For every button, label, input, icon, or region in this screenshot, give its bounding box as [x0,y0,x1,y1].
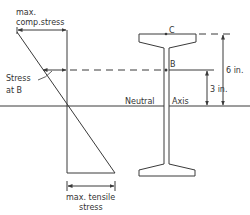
point-b-marker [165,69,168,72]
six-inch-label: 6 in. [226,66,243,75]
stress-at-b-arrow [38,70,66,80]
stress-distribution [17,30,115,173]
max-tensile-label-line2: stress [79,203,103,212]
axis-label: Axis [172,97,189,106]
max-tensile-stress-dimension [67,181,115,191]
stress-at-b-label-line2: at B [6,86,22,95]
point-b-label: B [170,60,176,69]
point-c-marker [165,33,168,36]
max-comp-stress-dimension [17,27,66,34]
neutral-label: Neutral [125,97,155,106]
stress-gradient-line [17,32,115,173]
max-comp-label-line1: max. [16,8,36,17]
bending-stress-diagram: max. comp.stress Stress at B max. tensil… [0,0,250,215]
max-comp-label-line2: comp.stress [16,18,64,27]
max-tensile-label-line1: max. tensile [66,193,115,202]
point-c-label: C [169,26,175,35]
three-inch-label: 3 in. [210,85,227,94]
stress-at-b-label-line1: Stress [6,74,31,83]
